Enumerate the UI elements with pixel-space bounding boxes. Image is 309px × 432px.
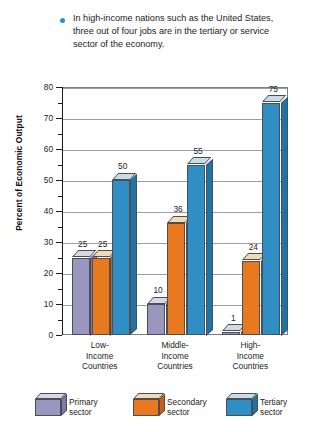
- bar-value-label: 50: [108, 161, 138, 171]
- x-axis-category-label: High-IncomeCountries: [212, 340, 288, 372]
- bar: [262, 103, 280, 336]
- chart-figure: In high-income nations such as the Unite…: [0, 0, 309, 432]
- legend-label: Primarysector: [69, 397, 131, 418]
- y-axis-tick-label: 40: [5, 206, 53, 216]
- bars-layer: 25255010365512475: [62, 87, 288, 335]
- bullet-icon: [60, 18, 65, 23]
- y-axis-tick-label: 60: [5, 144, 53, 154]
- bar-front-face: [242, 261, 260, 335]
- bar: [222, 332, 240, 335]
- y-axis-tick-label: 70: [5, 113, 53, 123]
- legend-label-line1: Primary: [69, 397, 131, 407]
- bar-front-face: [167, 223, 185, 335]
- x-axis-category-line: High-: [212, 340, 288, 351]
- bar-front-face: [72, 258, 90, 336]
- x-axis-category-label: Middle-IncomeCountries: [137, 340, 213, 372]
- legend-label-line2: sector: [69, 407, 131, 417]
- x-axis-category-line: Income: [62, 351, 138, 362]
- bar-side-face: [281, 97, 288, 335]
- bar: [92, 258, 110, 336]
- legend-label-line2: sector: [260, 407, 309, 417]
- legend-label-line1: Tertiary: [260, 397, 309, 407]
- bar: [112, 180, 130, 335]
- bar-front-face: [187, 165, 205, 336]
- legend-swatch-front: [35, 399, 61, 416]
- y-axis-tick-label: 50: [5, 175, 53, 185]
- x-axis-category-line: Countries: [62, 361, 138, 372]
- y-axis-title: Percent of Economic Output: [14, 88, 24, 258]
- y-axis-tick-label: 80: [5, 82, 53, 92]
- legend-swatch-icon: [226, 399, 252, 416]
- y-axis-ticks: 01020304050607080: [0, 87, 53, 335]
- legend-swatch-top: [226, 393, 257, 399]
- y-axis-tick: [56, 335, 62, 336]
- legend-label-line2: sector: [167, 407, 229, 417]
- bar-side-face: [130, 174, 137, 335]
- chart-legend: PrimarysectorSecondarysectorTertiarysect…: [0, 392, 309, 432]
- y-axis-tick-label: 20: [5, 268, 53, 278]
- x-axis-category-line: Income: [212, 351, 288, 362]
- x-axis-category-line: Middle-: [137, 340, 213, 351]
- y-axis-tick-label: 0: [5, 330, 53, 340]
- bar-value-label: 55: [183, 146, 213, 156]
- legend-swatch-top: [133, 393, 164, 399]
- y-axis-tick-label: 30: [5, 237, 53, 247]
- legend-label-line1: Secondary: [167, 397, 229, 407]
- bar: [167, 223, 185, 335]
- bar-front-face: [222, 332, 240, 335]
- bar-side-face: [206, 159, 213, 335]
- y-axis-tick-label: 10: [5, 299, 53, 309]
- x-axis-labels: Low-IncomeCountriesMiddle-IncomeCountrie…: [62, 340, 288, 382]
- bar: [187, 165, 205, 336]
- bar: [72, 258, 90, 336]
- x-axis-category-line: Countries: [212, 361, 288, 372]
- bar: [147, 304, 165, 335]
- legend-label: Tertiarysector: [260, 397, 309, 418]
- legend-swatch-front: [133, 399, 159, 416]
- x-axis-category-line: Low-: [62, 340, 138, 351]
- bar-value-label: 75: [258, 84, 288, 94]
- bar-front-face: [92, 258, 110, 336]
- bar-front-face: [147, 304, 165, 335]
- legend-swatch-front: [226, 399, 252, 416]
- bar-front-face: [262, 103, 280, 336]
- legend-swatch-top: [35, 393, 66, 399]
- legend-swatch-icon: [133, 399, 159, 416]
- caption-text: In high-income nations such as the Unite…: [73, 12, 296, 52]
- x-axis-category-line: Income: [137, 351, 213, 362]
- bar: [242, 261, 260, 335]
- x-axis-category-label: Low-IncomeCountries: [62, 340, 138, 372]
- legend-swatch-icon: [35, 399, 61, 416]
- bar-front-face: [112, 180, 130, 335]
- caption: In high-income nations such as the Unite…: [60, 12, 296, 52]
- legend-label: Secondarysector: [167, 397, 229, 418]
- x-axis-category-line: Countries: [137, 361, 213, 372]
